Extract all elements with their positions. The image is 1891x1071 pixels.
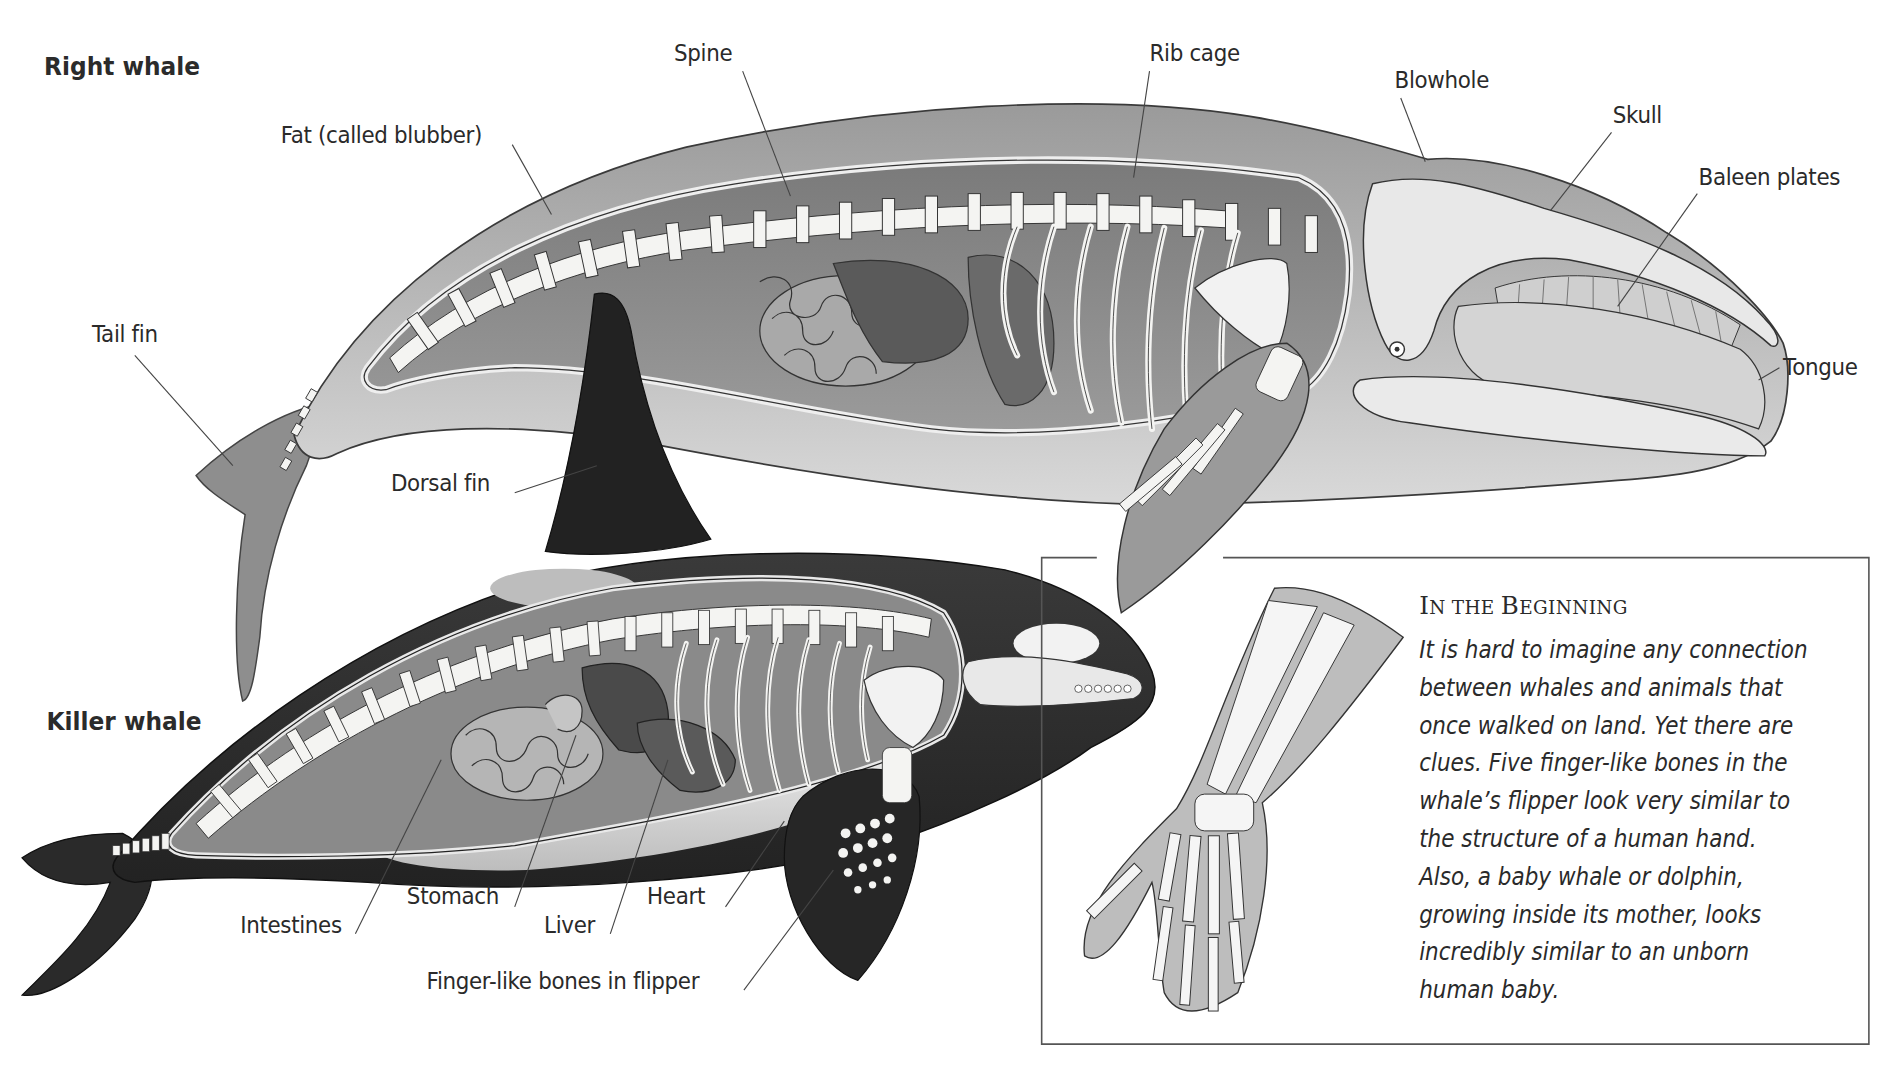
label-finger-bones: Finger-like bones in flipper (426, 967, 699, 994)
sidebar-heading: IN THE BEGINNING (1419, 591, 1628, 620)
whale-anatomy-diagram: Right whale Killer whale Spine Rib cage … (0, 0, 1891, 1071)
sidebar-body: It is hard to imagine any connection bet… (1419, 632, 1816, 1009)
label-stomach: Stomach (407, 882, 499, 909)
label-fat: Fat (called blubber) (281, 121, 482, 148)
sidebar-line: human baby. (1419, 972, 1816, 1010)
label-blowhole: Blowhole (1395, 66, 1489, 93)
label-tongue: Tongue (1783, 353, 1857, 380)
sidebar-line: growing inside its mother, looks (1419, 897, 1816, 935)
sidebar-line: the structure of a human hand. (1419, 821, 1816, 859)
sidebar-line: clues. Five finger-like bones in the (1419, 746, 1816, 784)
label-intestines: Intestines (240, 911, 342, 938)
right-whale-title: Right whale (44, 51, 200, 80)
label-liver: Liver (544, 911, 595, 938)
sidebar-line: incredibly similar to an unborn (1419, 934, 1816, 972)
label-rib-cage: Rib cage (1150, 39, 1240, 66)
sidebar-line: once walked on land. Yet there are (1419, 708, 1816, 746)
label-skull: Skull (1613, 100, 1662, 127)
label-heart: Heart (647, 882, 705, 909)
label-spine: Spine (674, 39, 732, 66)
label-dorsal-fin: Dorsal fin (391, 469, 490, 496)
label-baleen-plates: Baleen plates (1699, 163, 1841, 190)
sidebar-line: whale’s flipper look very similar to (1419, 783, 1816, 821)
killer-whale-title: Killer whale (47, 707, 202, 736)
sidebar-line: It is hard to imagine any connection (1419, 632, 1816, 670)
sidebar-line: between whales and animals that (1419, 670, 1816, 708)
sidebar-line: Also, a baby whale or dolphin, (1419, 859, 1816, 897)
label-tail-fin: Tail fin (92, 320, 158, 347)
